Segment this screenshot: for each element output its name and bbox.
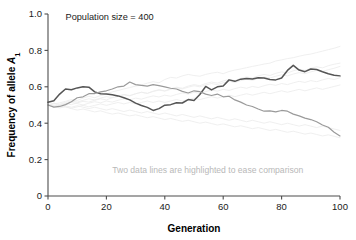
x-tick-label-40: 40	[160, 201, 171, 212]
y-tick-label-0.2: 0.2	[29, 154, 42, 165]
series-line-highlighted-dark	[48, 65, 340, 110]
y-tick-label-0.4: 0.4	[29, 118, 42, 129]
y-axis-title: Frequency of allele A1	[6, 53, 22, 158]
highlight-explanation-annotation: Two data lines are highlighted to ease c…	[112, 165, 303, 175]
x-tick-label-100: 100	[332, 201, 348, 212]
line-chart-canvas: 00.20.40.60.81.0020406080100 Population …	[0, 0, 356, 240]
y-axis-title-subscript: 1	[13, 53, 22, 57]
series-line-background-1	[48, 46, 340, 105]
population-size-note: Population size = 400	[66, 12, 154, 22]
y-axis-title-italic: A	[6, 57, 17, 65]
y-tick-label-0.8: 0.8	[29, 45, 42, 56]
x-tick-label-60: 60	[218, 201, 229, 212]
x-tick-label-0: 0	[45, 201, 50, 212]
x-tick-label-20: 20	[101, 201, 112, 212]
series-line-background-5	[48, 105, 340, 130]
y-axis-title-main: Frequency of allele	[6, 64, 17, 157]
y-tick-label-0.6: 0.6	[29, 81, 42, 92]
chart-figure: 00.20.40.60.81.0020406080100 Population …	[0, 0, 356, 240]
x-axis-title: Generation	[168, 223, 221, 234]
svg-text:Frequency of allele A1: Frequency of allele A1	[6, 53, 22, 158]
series-line-background-4	[48, 105, 340, 138]
series-line-background-6	[48, 66, 340, 105]
y-tick-label-1.0: 1.0	[29, 8, 42, 19]
background-series-group	[48, 46, 340, 137]
y-tick-label-0: 0	[37, 190, 42, 201]
x-tick-label-80: 80	[276, 201, 287, 212]
